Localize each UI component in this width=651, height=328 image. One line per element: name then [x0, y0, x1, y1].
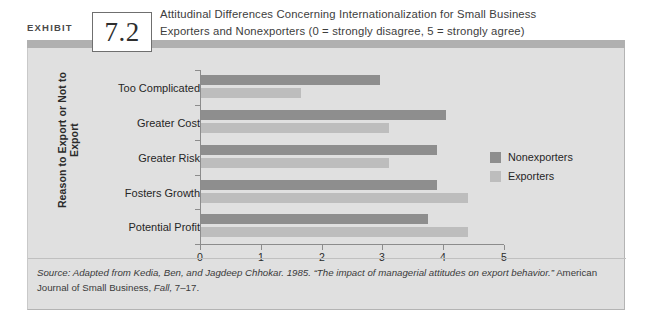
x-tick-label-4: 4 — [433, 251, 453, 263]
source-issue: Fall, — [154, 282, 172, 293]
exhibit-label: EXHIBIT — [27, 22, 73, 33]
x-tick-mark — [382, 245, 383, 250]
x-tick-label-1: 1 — [251, 251, 271, 263]
source-pages: 7–17. — [172, 282, 199, 293]
y-tick-mark — [195, 209, 200, 210]
exhibit-number: 7.2 — [104, 19, 139, 46]
y-tick-label-too-complicated: Too Complicated — [118, 82, 200, 94]
x-tick-mark — [322, 245, 323, 250]
bar-nonexporters-greater-cost — [201, 110, 446, 120]
title-line-2: Exporters and Nonexporters (0 = strongly… — [160, 23, 640, 40]
y-tick-label-fosters-growth: Fosters Growth — [125, 187, 200, 199]
bar-nonexporters-too-complicated — [201, 75, 380, 85]
source-prefix: Source: — [37, 267, 70, 278]
x-tick-label-2: 2 — [312, 251, 332, 263]
chart-plot-area: Reason to Export or Not to Export Too Co… — [28, 48, 626, 253]
bar-exporters-fosters-growth — [201, 193, 468, 203]
exhibit-number-box: 7.2 — [92, 12, 152, 52]
bar-nonexporters-potential-profit — [201, 214, 428, 224]
chart-legend: Nonexporters Exporters — [490, 151, 573, 189]
y-tick-label-potential-profit: Potential Profit — [128, 221, 200, 233]
x-tick-mark — [443, 245, 444, 250]
bar-nonexporters-fosters-growth — [201, 180, 437, 190]
source-citation-italic: Adapted from Kedia, Ben, and Jagdeep Chh… — [70, 267, 554, 278]
source-note: Source: Adapted from Kedia, Ben, and Jag… — [37, 266, 615, 295]
y-tick-label-greater-risk: Greater Risk — [138, 152, 200, 164]
y-tick-mark — [195, 105, 200, 106]
legend-label-exporters: Exporters — [508, 170, 554, 182]
legend-swatch-nonexporters — [490, 152, 501, 163]
x-tick-label-3: 3 — [372, 251, 392, 263]
bar-exporters-greater-cost — [201, 123, 389, 133]
source-divider — [28, 258, 626, 259]
title-line-1: Attitudinal Differences Concerning Inter… — [160, 6, 640, 23]
bar-nonexporters-greater-risk — [201, 145, 437, 155]
bar-exporters-greater-risk — [201, 158, 389, 168]
exhibit-panel: Reason to Export or Not to Export Too Co… — [27, 48, 625, 310]
x-tick-mark — [504, 245, 505, 250]
bar-exporters-potential-profit — [201, 227, 468, 237]
bar-exporters-too-complicated — [201, 88, 301, 98]
legend-label-nonexporters: Nonexporters — [508, 151, 573, 163]
x-axis-line — [200, 244, 504, 245]
x-tick-label-0: 0 — [190, 251, 210, 263]
y-tick-mark — [195, 175, 200, 176]
legend-item-exporters: Exporters — [490, 170, 573, 182]
y-tick-mark — [195, 70, 200, 71]
legend-swatch-exporters — [490, 171, 501, 182]
x-tick-mark — [261, 245, 262, 250]
y-tick-mark — [195, 140, 200, 141]
legend-item-nonexporters: Nonexporters — [490, 151, 573, 163]
y-tick-label-greater-cost: Greater Cost — [137, 117, 200, 129]
x-tick-label-5: 5 — [494, 251, 514, 263]
exhibit-title: Attitudinal Differences Concerning Inter… — [160, 6, 640, 39]
y-axis-title: Reason to Export or Not to Export — [56, 60, 80, 220]
x-tick-mark — [200, 245, 201, 250]
